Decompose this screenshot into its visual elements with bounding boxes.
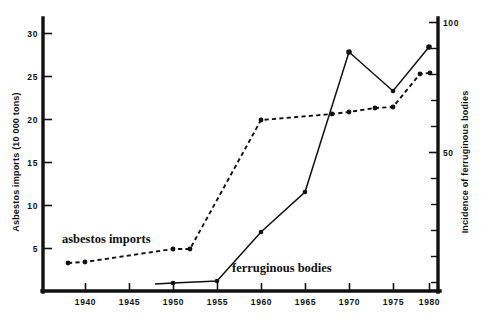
series-ferruginous-bodies [155,44,432,285]
chart-container: Asbestos imports (10 000 tons) Incidence… [0,0,482,327]
asbestos-imports-point [66,261,71,266]
asbestos-imports-point [373,106,378,111]
left-axis-title-group: Asbestos imports (10 000 tons) [11,92,21,232]
right-tick-label-50: 50 [443,148,454,158]
asbestos-imports-point [188,247,193,252]
x-tick-label-1960: 1960 [251,297,272,307]
ferruginous-bodies-point [426,44,432,50]
annotation-asbestos-imports: asbestos imports [62,232,151,246]
right-axis-ticks: 100 50 [429,18,459,283]
right-axis-title-group: Incidence of ferruginous bodies [460,91,470,234]
left-axis-ticks: 30 25 20 15 10 5 [27,29,52,254]
left-tick-label-5: 5 [33,244,38,254]
asbestos-imports-point [259,118,264,123]
left-axis-title: Asbestos imports (10 000 tons) [11,92,21,232]
left-tick-label-10: 10 [27,201,38,211]
ferruginous-bodies-point [391,89,396,94]
right-tick-label-100: 100 [443,18,459,28]
ferruginous-bodies-point [303,190,308,195]
ferruginous-bodies-line [155,47,429,284]
x-tick-label-1970: 1970 [339,297,360,307]
left-tick-label-25: 25 [27,72,38,82]
left-tick-label-20: 20 [27,115,38,125]
x-tick-label-1950: 1950 [163,297,184,307]
ferruginous-bodies-point [171,281,176,286]
ferruginous-bodies-point [259,230,264,235]
x-tick-label-1945: 1945 [119,297,140,307]
x-tick-label-1965: 1965 [295,297,316,307]
right-axis-title: Incidence of ferruginous bodies [460,91,470,234]
line-chart-figure: Asbestos imports (10 000 tons) Incidence… [0,0,482,327]
asbestos-imports-point [428,71,433,76]
asbestos-imports-point [330,112,335,117]
x-tick-label-1955: 1955 [207,297,228,307]
asbestos-imports-point [83,260,88,265]
asbestos-imports-point [171,247,176,252]
x-tick-label-1940: 1940 [75,297,96,307]
x-axis-ticks: 1940 1945 1950 1955 1960 1965 1970 1975 … [75,283,440,307]
asbestos-imports-point [391,105,396,110]
left-tick-label-30: 30 [27,29,38,39]
ferruginous-bodies-point [215,279,220,284]
asbestos-imports-point [347,110,352,115]
x-tick-label-1980: 1980 [419,297,440,307]
annotation-ferruginous-bodies: ferruginous bodies [232,261,332,275]
left-tick-label-15: 15 [27,158,38,168]
x-tick-label-1975: 1975 [383,297,404,307]
ferruginous-bodies-point [346,49,352,55]
asbestos-imports-point [418,72,423,77]
series-annotations: asbestos imports ferruginous bodies [62,232,332,275]
